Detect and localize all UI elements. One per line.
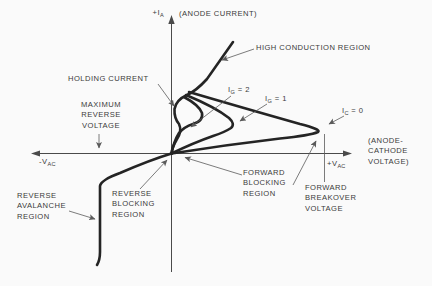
leader-forward-blocking (185, 158, 242, 176)
label-gate-current-2: IG = 2 (228, 85, 250, 97)
axis-label-negative-vac: -VAC (39, 157, 56, 169)
axis-caption-anode-current: (ANODE CURRENT) (179, 9, 257, 19)
label-maximum-reverse-voltage: MAXIMUM REVERSE VOLTAGE (72, 100, 130, 131)
leader-forward-breakover (293, 141, 316, 185)
axis-label-anode-current-symbol: +IA (130, 8, 164, 20)
label-reverse-avalanche-region: REVERSE AVALANCHE REGION (17, 191, 66, 222)
label-holding-current: HOLDING CURRENT (68, 74, 149, 84)
leader-reverse-avalanche (69, 211, 95, 219)
vertical-axis-arrow-icon (168, 15, 174, 24)
label-forward-breakover-voltage: FORWARD BREAKOVER VOLTAGE (305, 183, 356, 214)
label-gate-current-1: IG = 1 (265, 94, 287, 106)
curve-high-conduction (172, 42, 234, 154)
label-high-conduction-region: HIGH CONDUCTION REGION (256, 43, 371, 53)
axis-label-positive-vac: +VAC (327, 159, 346, 171)
horizontal-axis-right-arrow-icon (343, 150, 352, 156)
horizontal-axis-left-arrow-icon (31, 150, 40, 156)
label-reverse-blocking-region: REVERSE BLOCKING REGION (112, 189, 155, 220)
axis-caption-anode-cathode-voltage: (ANODE- CATHODE VOLTAGE) (368, 136, 409, 167)
scr-characteristic-figure: +IA (ANODE CURRENT) -VAC +VAC (ANODE- CA… (0, 0, 432, 286)
label-cathode-current-0: IC = 0 (342, 106, 364, 118)
label-forward-blocking-region: FORWARD BLOCKING REGION (243, 168, 286, 199)
